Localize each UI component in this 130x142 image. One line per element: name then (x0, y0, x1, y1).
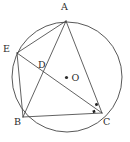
segment-EB (17, 53, 23, 117)
segment-AC (66, 21, 102, 113)
angle-mark-lower (92, 110, 95, 113)
angle-mark-upper (95, 103, 98, 106)
center-point-dot (65, 76, 68, 79)
point-label-c: C (103, 117, 110, 127)
point-label-a: A (61, 2, 68, 12)
point-label-e: E (3, 44, 10, 54)
point-label-d: D (38, 60, 46, 70)
point-label-b: B (14, 117, 21, 127)
segment-EC (17, 53, 102, 113)
geometry-figure: A E D B C O (0, 0, 130, 142)
point-label-o: O (72, 73, 80, 83)
segment-BC (23, 113, 102, 117)
